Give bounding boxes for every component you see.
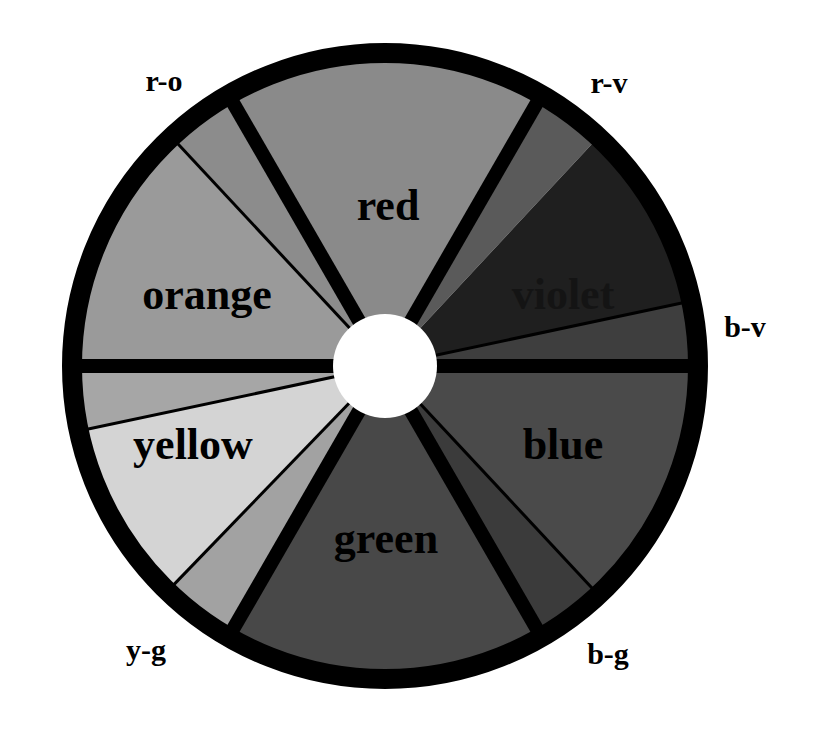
- label-red: red: [357, 181, 420, 230]
- label-b-g: b-g: [587, 637, 629, 670]
- label-orange: orange: [142, 270, 272, 319]
- label-violet: violet: [512, 270, 615, 319]
- label-green: green: [334, 514, 438, 563]
- label-blue: blue: [523, 420, 604, 469]
- wheel-center-hub: [333, 314, 437, 418]
- label-r-v: r-v: [590, 66, 627, 99]
- label-b-v: b-v: [724, 310, 766, 343]
- label-y-g: y-g: [126, 633, 166, 666]
- color-wheel-diagram: red orange violet yellow blue green r-o …: [0, 0, 821, 740]
- label-r-o: r-o: [145, 64, 182, 97]
- label-yellow: yellow: [133, 420, 253, 469]
